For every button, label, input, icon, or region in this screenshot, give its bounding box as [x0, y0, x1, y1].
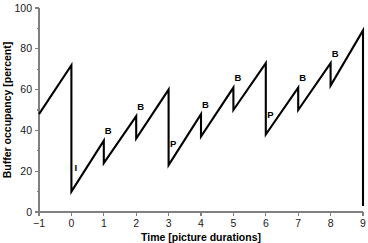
x-tick-label: 5	[230, 217, 236, 229]
picture-type-label-b: B	[105, 125, 112, 136]
x-tick-label: 4	[198, 217, 204, 229]
y-tick-label: 80	[20, 42, 32, 54]
x-tick-label: 7	[295, 217, 301, 229]
picture-type-label-b: B	[332, 48, 339, 59]
x-tick-label: 0	[68, 217, 74, 229]
x-tick-label: 3	[166, 217, 172, 229]
picture-type-label-b: B	[137, 101, 144, 112]
x-axis-title: Time [picture durations]	[141, 231, 261, 243]
y-tick-label: 100	[14, 2, 32, 14]
x-tick-label: −1	[33, 217, 45, 229]
picture-type-label-i: I	[75, 162, 78, 173]
y-tick-label: 40	[20, 124, 32, 136]
y-axis-ticks: 020406080100	[14, 2, 39, 218]
x-tick-label: 6	[263, 217, 269, 229]
x-tick-label: 8	[328, 217, 334, 229]
x-axis-ticks: −10123456789	[33, 212, 366, 229]
picture-type-label-p: P	[170, 138, 177, 149]
buffer-occupancy-trace	[39, 30, 363, 205]
picture-type-label-p: P	[267, 109, 274, 120]
y-tick-label: 0	[26, 206, 32, 218]
y-axis-title: Buffer occupancy [percent]	[1, 42, 13, 179]
x-tick-label: 1	[101, 217, 107, 229]
picture-type-label-b: B	[234, 72, 241, 83]
x-tick-label: 2	[133, 217, 139, 229]
x-tick-label: 9	[360, 217, 366, 229]
picture-type-label-b: B	[202, 99, 209, 110]
chart-figure: 020406080100 −10123456789 IBBPBBPBB Time…	[0, 0, 368, 243]
picture-type-label-b: B	[299, 72, 306, 83]
buffer-occupancy-chart: 020406080100 −10123456789 IBBPBBPBB Time…	[0, 0, 368, 243]
y-tick-label: 20	[20, 165, 32, 177]
y-tick-label: 60	[20, 83, 32, 95]
